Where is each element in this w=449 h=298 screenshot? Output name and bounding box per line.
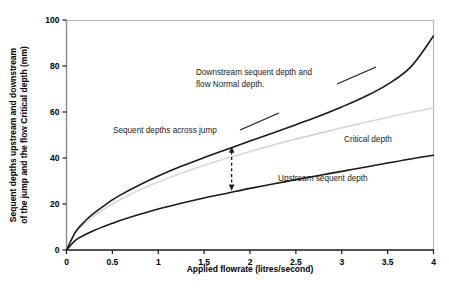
y-tick-label: 100 xyxy=(45,15,59,25)
chart-figure: 020406080100 00.511.522.533.54 Applied f… xyxy=(0,0,449,298)
x-tick-label: 1 xyxy=(156,257,161,267)
y-tick-label: 80 xyxy=(50,61,60,71)
downstream-sequent-depth-label-line1: Downstream sequent depth and xyxy=(196,68,313,77)
y-axis-title-line1: Sequent depths upstream and downstream xyxy=(8,47,18,222)
chart-background xyxy=(0,0,449,298)
sequent-depths-across-jump-label: Sequent depths across jump xyxy=(113,126,217,135)
y-tick-label: 0 xyxy=(55,245,60,255)
x-tick-label: 3 xyxy=(339,257,344,267)
y-tick-label: 20 xyxy=(50,199,60,209)
x-tick-label: 0 xyxy=(64,257,69,267)
critical-depth-label: Critical depth xyxy=(344,135,392,144)
x-tick-label: 0.5 xyxy=(106,257,118,267)
upstream-sequent-depth-label: Upstream sequent depth xyxy=(278,174,368,183)
y-axis-title-line2: of the jump and the flow Critical depth … xyxy=(19,46,29,224)
x-axis-title: Applied flowrate (litres/second) xyxy=(187,264,314,274)
sequent-depth-chart: 020406080100 00.511.522.533.54 Applied f… xyxy=(0,0,449,298)
y-tick-label: 60 xyxy=(50,107,60,117)
x-tick-label: 4 xyxy=(431,257,436,267)
y-tick-label: 40 xyxy=(50,153,60,163)
downstream-sequent-depth-label-line2: flow Normal depth. xyxy=(196,80,264,89)
x-tick-label: 3.5 xyxy=(382,257,394,267)
